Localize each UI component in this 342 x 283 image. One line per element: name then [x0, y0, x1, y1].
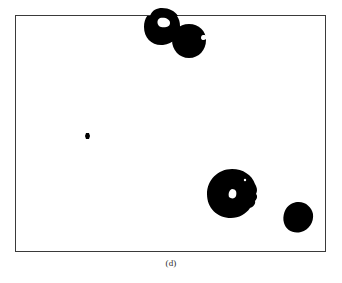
image-frame-border — [15, 15, 326, 252]
figure-caption: (d) — [0, 258, 342, 268]
figure-panel: (d) — [0, 0, 342, 283]
